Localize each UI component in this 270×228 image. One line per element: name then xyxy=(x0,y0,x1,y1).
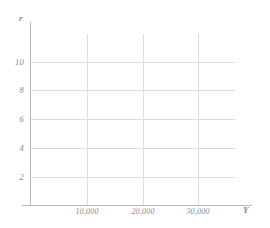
y-tick-label-10: 10 xyxy=(2,57,24,67)
y-tick-label-6: 6 xyxy=(2,114,24,124)
x-tick-label-20000: 20,000 xyxy=(115,207,171,216)
gridline-horizontal-2 xyxy=(31,177,235,178)
y-axis-line xyxy=(30,22,31,206)
chart-figure: 10 8 6 4 2 10,000 20,000 30,000 r Y xyxy=(0,0,270,228)
x-tick-label-30000: 30,000 xyxy=(170,207,226,216)
gridline-horizontal-10 xyxy=(31,62,235,63)
gridline-vertical-30000 xyxy=(198,34,199,205)
y-tick-label-8: 8 xyxy=(2,85,24,95)
x-tick-label-10000: 10,000 xyxy=(59,207,115,216)
y-tick-label-4: 4 xyxy=(2,143,24,153)
gridline-horizontal-6 xyxy=(31,119,235,120)
gridline-horizontal-8 xyxy=(31,90,235,91)
x-axis-label: Y xyxy=(243,205,249,215)
gridline-horizontal-4 xyxy=(31,148,235,149)
gridline-vertical-20000 xyxy=(143,34,144,205)
y-tick-label-2: 2 xyxy=(2,172,24,182)
gridline-vertical-10000 xyxy=(87,34,88,205)
y-axis-label: r xyxy=(19,13,23,23)
plot-area: 10 8 6 4 2 10,000 20,000 30,000 r Y xyxy=(0,0,270,228)
